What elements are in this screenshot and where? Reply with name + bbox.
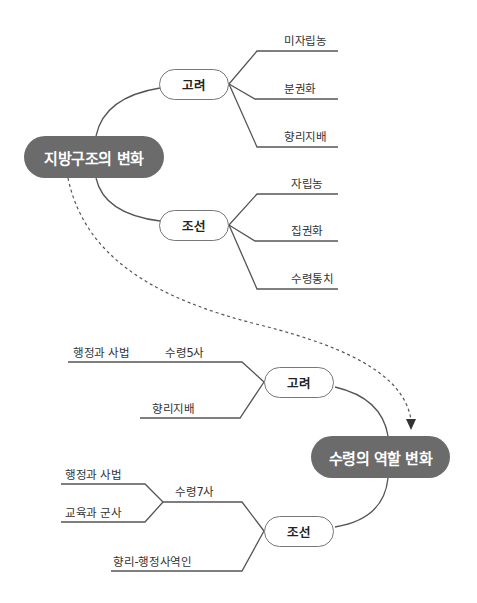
branch-node-goryeo-lower: 고려 [264, 367, 334, 398]
sub-node-label: 수령5사 [165, 344, 204, 360]
root-node-magistrate-role: 수령의 역할 변화 [311, 436, 450, 478]
leaf-label: 향리-행정사역인 [113, 553, 192, 569]
branch-node-goryeo: 고려 [159, 69, 229, 100]
branch-node-joseon: 조선 [159, 210, 229, 241]
arrowhead-down-icon [406, 419, 416, 430]
leaf-label: 교육과 군사 [65, 504, 122, 520]
root-node-local-structure: 지방구조의 변화 [24, 136, 164, 178]
sub-node-label: 수령7사 [175, 483, 214, 499]
leaf-label: 수령통치 [291, 270, 334, 286]
branch-node-joseon-lower: 조선 [264, 516, 334, 547]
leaf-label: 분권화 [284, 80, 316, 96]
leaf-label: 행정과 사법 [65, 466, 122, 482]
leaf-label: 행정과 사법 [73, 344, 130, 360]
leaf-label: 자립농 [291, 175, 323, 191]
leaf-label: 미자립농 [284, 32, 327, 48]
leaf-label: 집권화 [291, 222, 323, 238]
leaf-label: 향리지배 [152, 400, 195, 416]
leaf-label: 향리지배 [284, 128, 327, 144]
